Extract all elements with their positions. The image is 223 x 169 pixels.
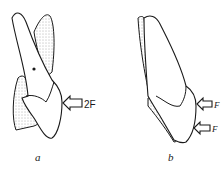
center-point (32, 67, 35, 70)
force-arrow-f-lower (194, 122, 210, 134)
caption-b: b (168, 151, 174, 163)
caption-a: a (35, 151, 41, 163)
force-arrow-2f (63, 96, 82, 110)
diagram-canvas: 2F a F F b (0, 0, 223, 169)
main-tooth-b (144, 16, 196, 143)
force-label-2f: 2F (84, 99, 96, 110)
panel-a: 2F a (12, 13, 96, 163)
force-label-f-lower: F (211, 124, 218, 134)
force-label-f-upper: F (213, 100, 220, 110)
panel-b: F F b (138, 16, 220, 163)
force-arrow-f-upper (197, 98, 212, 110)
